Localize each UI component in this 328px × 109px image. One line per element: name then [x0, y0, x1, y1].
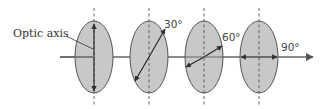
angle-label-90: 90°: [281, 41, 300, 53]
optic-axis-label: Optic axis: [13, 27, 69, 40]
plate-60-deg: [185, 8, 223, 106]
angle-label-30: 30°: [164, 18, 183, 30]
plate-90-deg: [240, 8, 278, 106]
waveplate-diagram: Optic axis 30° 60° 90°: [0, 0, 328, 109]
angle-label-60: 60°: [222, 31, 241, 43]
plate-30-deg: [130, 8, 168, 106]
